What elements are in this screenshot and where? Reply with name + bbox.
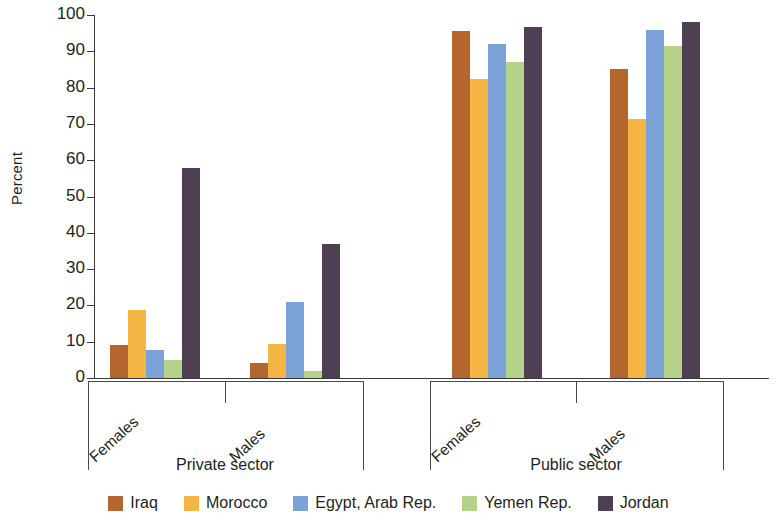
bar	[250, 363, 268, 378]
legend-label: Egypt, Arab Rep.	[315, 494, 436, 512]
legend-item: Morocco	[184, 494, 267, 512]
y-axis-tick-mark	[87, 88, 94, 89]
bar-chart: Percent 1009080706050403020100 Private s…	[0, 0, 777, 528]
legend-label: Yemen Rep.	[484, 494, 571, 512]
y-axis-tick-mark	[87, 124, 94, 125]
legend-swatch-icon	[598, 496, 613, 511]
x-axis-line	[94, 378, 769, 379]
y-axis-tick-label: 90	[66, 40, 85, 60]
bar	[182, 168, 200, 378]
sector-bracket-divider	[225, 381, 226, 403]
bar	[470, 79, 488, 378]
y-axis-tick-label: 20	[66, 294, 85, 314]
bar	[110, 345, 128, 378]
legend-item: Yemen Rep.	[462, 494, 571, 512]
bar	[506, 62, 524, 378]
bar	[452, 31, 470, 378]
y-axis-tick-mark	[87, 51, 94, 52]
y-axis-tick-mark	[87, 15, 94, 16]
y-axis-tick-label: 0	[76, 367, 85, 387]
legend-swatch-icon	[293, 496, 308, 511]
y-axis-tick-mark	[87, 197, 94, 198]
bar	[268, 344, 286, 378]
y-axis-tick-label: 100	[57, 4, 85, 24]
y-axis-tick-label: 80	[66, 77, 85, 97]
legend-swatch-icon	[462, 496, 477, 511]
legend-label: Morocco	[206, 494, 267, 512]
bar	[488, 44, 506, 378]
sector-bracket-divider	[576, 381, 577, 403]
y-axis-tick-mark	[87, 160, 94, 161]
bar	[682, 22, 700, 378]
bar	[128, 310, 146, 378]
y-axis-tick-mark	[87, 378, 94, 379]
bar	[664, 46, 682, 379]
y-axis-tick-mark	[87, 269, 94, 270]
legend-item: Iraq	[108, 494, 158, 512]
y-axis-tick-label: 30	[66, 258, 85, 278]
bar	[322, 244, 340, 378]
bar-group	[610, 15, 700, 378]
bar-group	[110, 15, 200, 378]
y-axis-tick-mark	[87, 342, 94, 343]
bar-group	[452, 15, 542, 378]
sector-label: Public sector	[430, 456, 722, 474]
bar	[164, 360, 182, 378]
y-axis-title: Percent	[8, 129, 25, 229]
legend-label: Iraq	[130, 494, 158, 512]
bar	[628, 119, 646, 378]
bar	[610, 69, 628, 378]
y-axis-tick-mark	[87, 305, 94, 306]
y-axis-tick-label: 60	[66, 149, 85, 169]
legend-item: Jordan	[598, 494, 669, 512]
y-axis-tick-label: 70	[66, 113, 85, 133]
bar	[304, 371, 322, 378]
bar-group	[250, 15, 340, 378]
legend-swatch-icon	[108, 496, 123, 511]
legend-item: Egypt, Arab Rep.	[293, 494, 436, 512]
legend-label: Jordan	[620, 494, 669, 512]
bar	[146, 350, 164, 378]
y-axis-tick-mark	[87, 233, 94, 234]
chart-legend: IraqMoroccoEgypt, Arab Rep.Yemen Rep.Jor…	[0, 494, 777, 512]
y-axis-tick-label: 50	[66, 186, 85, 206]
bar	[524, 27, 542, 378]
legend-swatch-icon	[184, 496, 199, 511]
bar	[646, 30, 664, 378]
sector-label: Private sector	[88, 456, 362, 474]
bar	[286, 302, 304, 378]
plot-area	[94, 15, 769, 378]
y-axis-tick-label: 10	[66, 331, 85, 351]
y-axis-tick-label: 40	[66, 222, 85, 242]
